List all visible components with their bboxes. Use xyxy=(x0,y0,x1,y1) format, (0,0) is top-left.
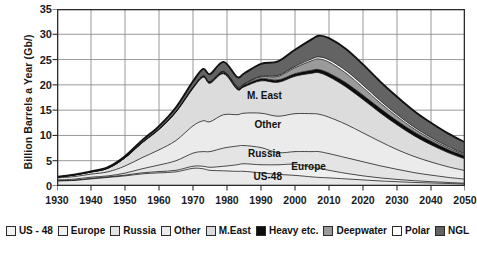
x-tick-label: 1980 xyxy=(215,194,238,206)
x-tick-label: 2030 xyxy=(385,194,408,206)
x-tick-label: 2050 xyxy=(453,194,476,206)
legend-swatch xyxy=(110,226,120,236)
legend-swatch xyxy=(392,226,402,236)
x-tick-label: 1970 xyxy=(181,194,204,206)
legend-label: M.East xyxy=(219,225,251,236)
legend-label: Europe xyxy=(71,225,105,236)
stacked-area-svg xyxy=(57,9,465,186)
x-tick-label: 2010 xyxy=(317,194,340,206)
x-tick-label: 2040 xyxy=(419,194,442,206)
legend-item[interactable]: Heavy etc. xyxy=(256,225,318,236)
legend-label: Russia xyxy=(123,225,156,236)
legend-swatch xyxy=(58,226,68,236)
x-tick-label: 1940 xyxy=(79,194,102,206)
x-tick-label: 2020 xyxy=(351,194,374,206)
legend-item[interactable]: M.East xyxy=(206,225,251,236)
x-tick-marks xyxy=(57,186,465,192)
legend-item[interactable]: Other xyxy=(161,225,201,236)
legend-label: Other xyxy=(174,225,201,236)
chart-legend: US - 48EuropeRussiaOtherM.EastHeavy etc.… xyxy=(0,225,475,236)
legend-item[interactable]: Polar xyxy=(392,225,430,236)
legend-item[interactable]: Russia xyxy=(110,225,156,236)
legend-label: Polar xyxy=(405,225,430,236)
legend-swatch xyxy=(161,226,171,236)
legend-label: Deepwater xyxy=(336,225,387,236)
legend-label: NGL xyxy=(448,225,469,236)
legend-label: Heavy etc. xyxy=(269,225,318,236)
legend-swatch xyxy=(323,226,333,236)
x-tick-label: 1990 xyxy=(249,194,272,206)
x-tick-label: 1930 xyxy=(45,194,68,206)
legend-item[interactable]: NGL xyxy=(435,225,469,236)
y-axis-tick-labels: 05101520253035 xyxy=(16,9,52,186)
legend-swatch xyxy=(206,226,216,236)
legend-item[interactable]: US - 48 xyxy=(6,225,53,236)
legend-item[interactable]: Europe xyxy=(58,225,105,236)
legend-label: US - 48 xyxy=(19,225,53,236)
plot-area xyxy=(57,9,465,186)
y-tick-marks xyxy=(51,9,57,186)
x-tick-label: 2000 xyxy=(283,194,306,206)
legend-swatch xyxy=(435,226,445,236)
x-axis-tick-labels: 1930194019501960197019801990200020102020… xyxy=(57,192,465,208)
x-tick-label: 1950 xyxy=(113,194,136,206)
legend-item[interactable]: Deepwater xyxy=(323,225,387,236)
legend-swatch xyxy=(256,226,266,236)
x-tick-label: 1960 xyxy=(147,194,170,206)
legend-swatch xyxy=(6,226,16,236)
